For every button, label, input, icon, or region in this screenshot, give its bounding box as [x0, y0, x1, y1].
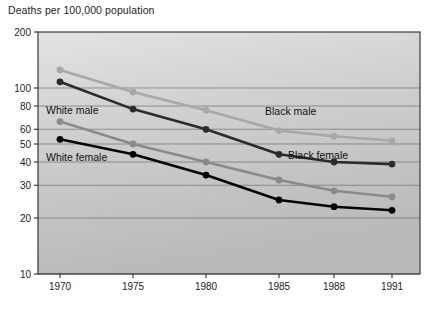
y-axis-tick-label: 40 [20, 157, 32, 168]
y-axis-tick-label: 30 [20, 180, 32, 191]
data-point [276, 177, 283, 184]
chart-figure: Deaths per 100,000 population 2001008060… [0, 0, 435, 311]
data-point [203, 126, 210, 133]
y-axis-tick-label: 200 [14, 27, 31, 38]
data-point [130, 151, 137, 158]
x-axis-tick-label: 1985 [268, 281, 291, 292]
series-label-black-male: Black male [265, 105, 317, 117]
data-point [331, 203, 338, 210]
y-axis-tick-label: 20 [20, 213, 32, 224]
data-point [57, 78, 64, 85]
data-point [389, 161, 396, 168]
data-point [130, 89, 137, 96]
data-point [57, 118, 64, 125]
line-chart-plot: 20010080605040302010 1970197519801985198… [0, 0, 435, 311]
x-axis-tick-label: 1975 [122, 281, 145, 292]
data-point [276, 127, 283, 134]
data-point [57, 136, 64, 143]
series-label-black-female: Black female [288, 149, 348, 161]
x-axis-ticks-group [60, 274, 392, 278]
data-point [203, 107, 210, 114]
y-axis-tick-labels-group: 20010080605040302010 [14, 27, 31, 280]
series-label-white-male: White male [46, 104, 99, 116]
x-axis-tick-label: 1980 [195, 281, 218, 292]
data-point [130, 106, 137, 113]
x-axis-tick-label: 1970 [49, 281, 72, 292]
y-axis-tick-label: 60 [20, 124, 32, 135]
x-axis-tick-labels-group: 197019751980198519881991 [49, 281, 404, 292]
data-point [203, 172, 210, 179]
data-point [276, 197, 283, 204]
y-axis-tick-label: 10 [20, 269, 32, 280]
data-point [331, 133, 338, 140]
data-point [57, 67, 64, 74]
data-point [331, 187, 338, 194]
y-axis-tick-label: 50 [20, 139, 32, 150]
data-point [389, 137, 396, 144]
y-axis-tick-label: 100 [14, 83, 31, 94]
data-point [389, 193, 396, 200]
data-point [130, 141, 137, 148]
x-axis-tick-label: 1991 [381, 281, 404, 292]
data-point [389, 207, 396, 214]
data-point [203, 159, 210, 166]
x-axis-tick-label: 1988 [323, 281, 346, 292]
y-axis-tick-label: 80 [20, 101, 32, 112]
series-label-white-female: White female [46, 151, 107, 163]
data-point [276, 151, 283, 158]
